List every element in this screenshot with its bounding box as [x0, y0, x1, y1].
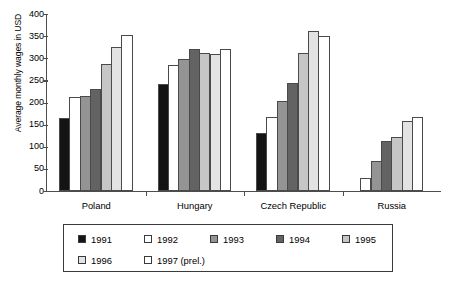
y-tick-label: 400: [14, 10, 44, 19]
legend-swatch: [144, 235, 152, 243]
legend-label: 1993: [223, 234, 244, 245]
y-tick-label: 100: [14, 142, 44, 151]
y-tick-label: 350: [14, 32, 44, 41]
legend-label: 1991: [91, 234, 112, 245]
y-tick-label: 250: [14, 76, 44, 85]
legend-label: 1994: [289, 234, 310, 245]
legend-label: 1995: [355, 234, 376, 245]
legend-label: 1997 (prel.): [157, 255, 205, 266]
legend-item[interactable]: 1992: [144, 234, 178, 245]
x-axis-category-label: Poland: [47, 200, 146, 211]
y-tick-label: 50: [14, 164, 44, 173]
legend-item[interactable]: 1993: [210, 234, 244, 245]
bar-group-bars: [59, 14, 137, 191]
x-axis-group-separator: [146, 191, 147, 196]
bar-group: Poland: [47, 14, 146, 191]
x-axis-category-label: Czech Republic: [244, 200, 343, 211]
bar-group-bars: [158, 14, 236, 191]
x-axis-category-label: Russia: [343, 200, 442, 211]
legend-item[interactable]: 1997 (prel.): [144, 255, 205, 266]
legend-swatch: [78, 235, 86, 243]
bar-group: Hungary: [146, 14, 245, 191]
legend-label: 1996: [91, 255, 112, 266]
y-tick-label: 300: [14, 54, 44, 63]
x-axis-group-separator: [343, 191, 344, 196]
bar-chart: Average monthly wages in USD 05010015020…: [0, 0, 461, 284]
legend-label: 1992: [157, 234, 178, 245]
legend-swatch: [144, 256, 152, 264]
bar-group: Russia: [343, 14, 442, 191]
legend-row-second: 19961997 (prel.): [64, 249, 392, 271]
legend-row-first: 19911992199319941995: [64, 228, 392, 250]
legend-swatch: [276, 235, 284, 243]
bar-group-bars: [360, 14, 427, 191]
x-axis-category-label: Hungary: [146, 200, 245, 211]
legend-item[interactable]: 1995: [342, 234, 376, 245]
bar: [121, 35, 132, 191]
y-tick-label: 0: [14, 187, 44, 196]
legend-item[interactable]: 1994: [276, 234, 310, 245]
y-tick-label: 200: [14, 98, 44, 107]
bar-group: Czech Republic: [244, 14, 343, 191]
legend-swatch: [78, 256, 86, 264]
legend-item[interactable]: 1991: [78, 234, 112, 245]
legend: 19911992199319941995 19961997 (prel.): [63, 224, 393, 272]
bar: [220, 49, 231, 191]
bar-group-bars: [256, 14, 334, 191]
legend-item[interactable]: 1996: [78, 255, 112, 266]
y-tick-mark: [43, 191, 48, 192]
y-tick-label: 150: [14, 120, 44, 129]
legend-swatch: [210, 235, 218, 243]
x-axis-group-separator: [244, 191, 245, 196]
plot-area: Average monthly wages in USD 05010015020…: [0, 6, 461, 192]
bar: [318, 36, 329, 191]
legend-swatch: [342, 235, 350, 243]
bars-layer: PolandHungaryCzech RepublicRussia: [47, 14, 441, 191]
bar: [412, 117, 423, 191]
